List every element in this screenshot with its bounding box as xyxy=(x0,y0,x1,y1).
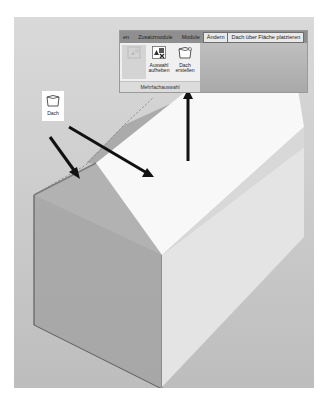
auswahl-aufheben-button[interactable]: Auswahl aufheben xyxy=(147,45,171,79)
deselect-icon xyxy=(152,46,166,59)
ribbon-panel-mehrfachauswahl: Auswahl aufheben Dach erstellen Mehrfach… xyxy=(120,43,200,92)
auswahl-aufheben-label-2: aufheben xyxy=(147,68,171,74)
dach-callout: Dach xyxy=(42,91,64,121)
tab-zusatzmodule[interactable]: Zusatzmodule xyxy=(132,31,176,43)
dach-callout-label: Dach xyxy=(42,110,64,116)
ribbon-toolbar: en Zusatzmodule Module Ändern Dach über … xyxy=(119,30,308,93)
tab-dach-ueber-flaeche[interactable]: Dach über Fläche platzieren xyxy=(228,32,304,43)
ribbon-tabs: en Zusatzmodule Module Ändern Dach über … xyxy=(120,31,307,43)
tab-partial[interactable]: en xyxy=(120,31,132,43)
multi-select-button xyxy=(122,45,146,79)
roof-icon xyxy=(46,94,60,107)
dach-erstellen-label-2: erstellen xyxy=(173,68,197,74)
arrow-to-gable xyxy=(50,137,80,179)
group-label-mehrfachauswahl: Mehrfachauswahl xyxy=(120,81,200,92)
dach-erstellen-button[interactable]: Dach erstellen xyxy=(173,45,197,79)
tab-aendern[interactable]: Ändern xyxy=(203,32,229,43)
3d-viewport[interactable]: en Zusatzmodule Module Ändern Dach über … xyxy=(14,17,314,388)
multi-select-icon xyxy=(127,46,141,59)
tab-module[interactable]: Module xyxy=(176,31,203,43)
roof-create-icon xyxy=(178,46,192,59)
